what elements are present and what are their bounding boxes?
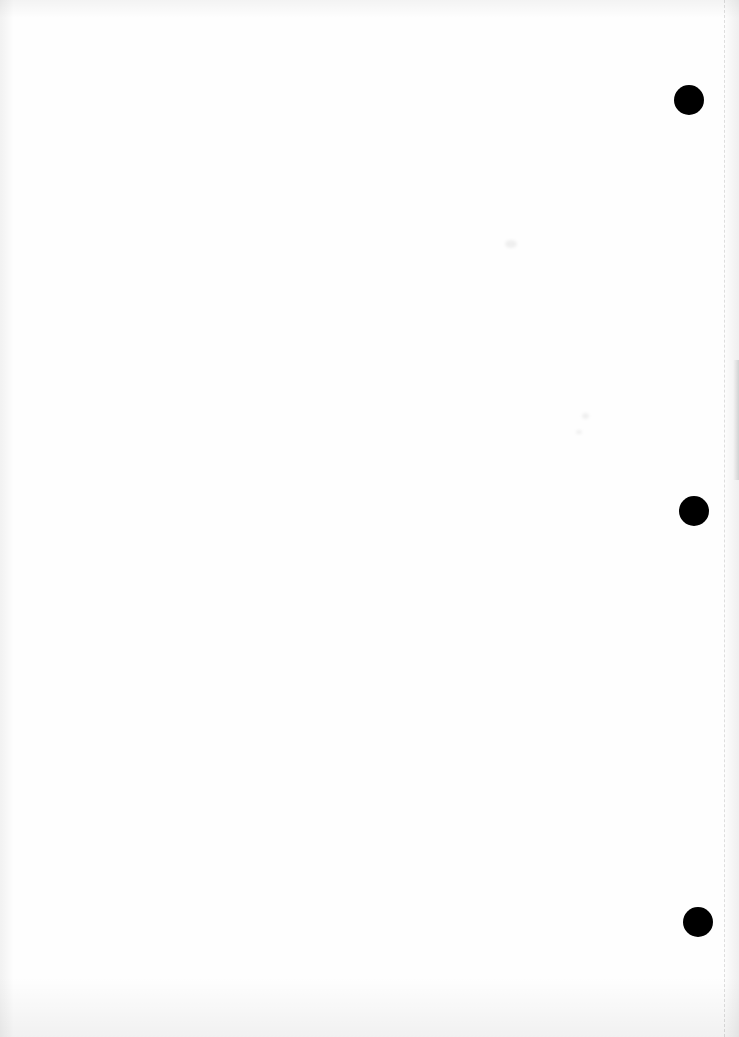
punch-hole-bottom	[683, 907, 713, 937]
scan-shading-top	[0, 0, 739, 18]
punch-hole-top	[674, 85, 704, 115]
scan-shading-left	[0, 0, 14, 1037]
scan-smudge	[582, 413, 589, 419]
page-edge-shadow	[733, 360, 739, 480]
scan-shading-bottom	[0, 977, 739, 1037]
scan-smudge	[576, 430, 582, 434]
fold-line	[724, 0, 725, 1037]
scan-shading-right	[723, 0, 739, 1037]
scan-smudge	[505, 240, 517, 248]
scanned-page	[0, 0, 739, 1037]
punch-hole-middle	[679, 496, 709, 526]
